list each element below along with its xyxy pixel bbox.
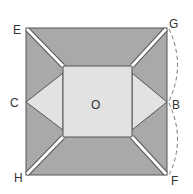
label-e: E (13, 23, 21, 37)
label-o: O (91, 98, 100, 112)
label-h: H (14, 171, 23, 185)
dashed-arc-lower (169, 103, 178, 175)
label-f: F (171, 174, 178, 188)
folded-square-diagram: E G C O B H F (0, 0, 193, 194)
dashed-arc-upper (169, 29, 178, 101)
label-b: B (172, 98, 180, 112)
label-c: C (10, 96, 19, 110)
diagram-canvas: E G C O B H F (0, 0, 193, 194)
label-g: G (169, 17, 178, 31)
